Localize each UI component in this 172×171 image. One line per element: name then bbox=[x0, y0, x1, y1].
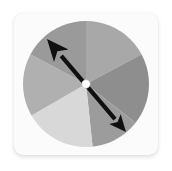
spinner-wheel[interactable] bbox=[14, 13, 158, 155]
pivot-dot bbox=[82, 80, 90, 88]
spinner-screenshot-root: Spinner Wheel bbox=[0, 0, 172, 171]
spinner-wheel-graphic[interactable] bbox=[14, 13, 158, 155]
spinner-title: Spinner Wheel bbox=[0, 0, 1, 1]
